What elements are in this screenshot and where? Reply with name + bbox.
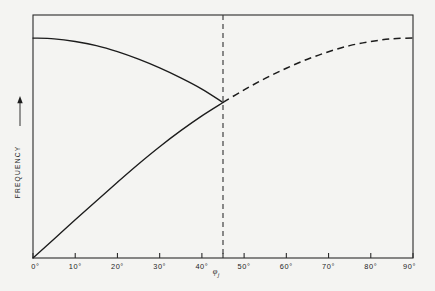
curve-ascending-curve-dashed (223, 38, 413, 102)
x-tick-label-60°: 60° (280, 262, 293, 271)
y-axis-label-group: FREQUENCY (14, 96, 23, 198)
x-tick-label-80°: 80° (364, 262, 377, 271)
x-tick-label-30°: 30° (153, 262, 166, 271)
curve-ascending-curve-solid (33, 102, 223, 258)
x-tick-label-70°: 70° (322, 262, 335, 271)
y-axis-arrow-head (17, 96, 22, 103)
x-axis-title: φj (213, 266, 220, 278)
x-tick-label-40°: 40° (195, 262, 208, 271)
x-tick-label-50°: 50° (238, 262, 251, 271)
x-tick-label-90°: 90° (403, 262, 416, 271)
y-axis-label: FREQUENCY (14, 146, 22, 199)
x-axis-title-subscript: j (217, 272, 220, 278)
x-tick-label-20°: 20° (111, 262, 124, 271)
x-axis-tick-labels: 0°10°20°30°40°50°60°70°80°90° (31, 262, 416, 271)
figure-panel: 0°10°20°30°40°50°60°70°80°90° FREQUENCY … (0, 0, 435, 291)
x-tick-label-10°: 10° (69, 262, 82, 271)
x-axis-title-group: φj (213, 266, 220, 278)
chart-svg: 0°10°20°30°40°50°60°70°80°90° FREQUENCY … (0, 0, 435, 291)
curve-descending-curve (33, 38, 223, 102)
x-tick-label-0°: 0° (31, 262, 39, 271)
